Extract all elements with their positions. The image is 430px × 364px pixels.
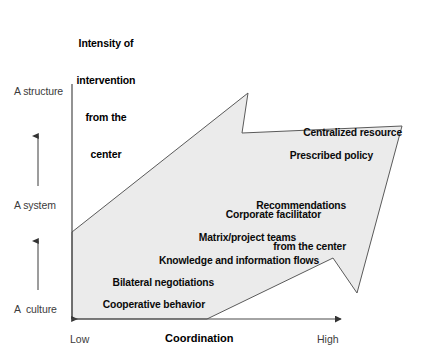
y-axis-title-line-2: intervention xyxy=(46,74,166,86)
band-label-cooperative-behavior: Cooperative behavior xyxy=(103,299,205,310)
y-axis-title-line-1: Intensity of xyxy=(46,37,166,49)
intervention-coordination-diagram: Intensity of intervention from the cente… xyxy=(0,0,430,364)
band-label-matrix-project-teams: Matrix/project teams xyxy=(199,232,296,243)
band-label-centralized-resource: Centralized resource xyxy=(303,127,402,138)
y-axis-title-line-3: from the xyxy=(46,111,166,123)
x-axis-title: Coordination xyxy=(165,332,233,345)
stage-label-system: A system xyxy=(14,199,56,211)
y-axis-title-line-4: center xyxy=(46,148,166,160)
y-axis-title: Intensity of intervention from the cente… xyxy=(46,12,166,185)
x-axis-low-label: Low xyxy=(70,333,89,345)
x-axis-high-label: High xyxy=(317,333,339,345)
band-label-corporate-facilitator: Corporate facilitator xyxy=(226,209,321,220)
stage-label-structure: A structure xyxy=(14,85,63,97)
stage-label-culture: A culture xyxy=(14,303,57,315)
band-label-bilateral-negotiations: Bilateral negotiations xyxy=(113,277,214,288)
band-label-knowledge-and-information-flows: Knowledge and information flows xyxy=(159,255,319,266)
band-label-prescribed-policy: Prescribed policy xyxy=(290,150,373,161)
